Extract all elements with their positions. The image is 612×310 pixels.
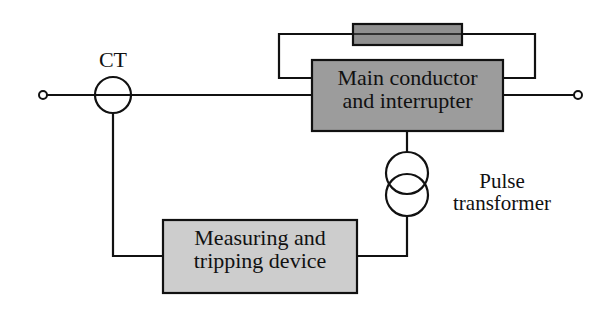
circuit-diagram: CT Main conductor and interrupter Pulse … <box>0 0 612 310</box>
measuring-label-line2: tripping device <box>163 249 357 272</box>
terminal-right-icon <box>574 91 582 99</box>
main-box-label-line2: and interrupter <box>312 89 503 112</box>
pulse-label-line2: transformer <box>437 192 567 214</box>
ct-label: CT <box>93 48 133 71</box>
main-box-label: Main conductor and interrupter <box>312 66 503 112</box>
main-box-label-line1: Main conductor <box>312 66 503 89</box>
pulse-label-line1: Pulse <box>437 170 567 192</box>
measuring-label-line1: Measuring and <box>163 226 357 249</box>
pulse-transformer-label: Pulse transformer <box>437 170 567 214</box>
ct-wire <box>113 113 163 256</box>
measuring-box-label: Measuring and tripping device <box>163 226 357 272</box>
pt-wire-bottom <box>357 216 407 256</box>
terminal-left-icon <box>39 91 47 99</box>
